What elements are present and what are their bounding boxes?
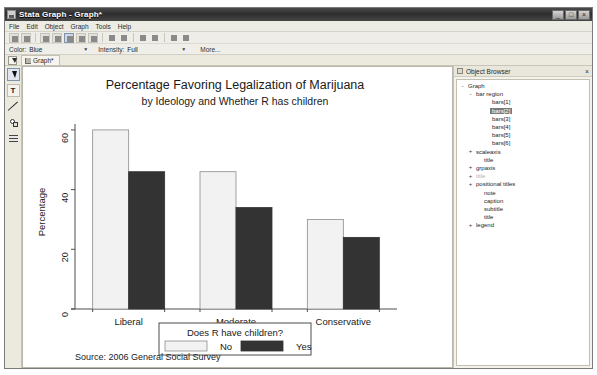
expand-icon[interactable]: +: [467, 181, 474, 188]
redo-icon[interactable]: [119, 33, 129, 43]
tab-graph[interactable]: Graph*: [21, 55, 60, 65]
close-icon: ×: [579, 11, 589, 19]
toolbar-separator: [35, 33, 36, 42]
more-button[interactable]: More...: [200, 46, 220, 53]
object-browser-tree[interactable]: -Graph-bar regionbars[1]bars[2]bars[3]ba…: [456, 79, 590, 366]
collapse-icon[interactable]: -: [459, 83, 466, 90]
grid-tool[interactable]: [7, 132, 20, 145]
tool-palette: T: [5, 66, 22, 368]
expand-icon[interactable]: +: [467, 148, 474, 155]
close-button[interactable]: ×: [578, 10, 590, 20]
close-panel-icon[interactable]: ×: [585, 68, 589, 75]
paste-icon[interactable]: [52, 33, 62, 43]
tree-node-label: bar region: [474, 91, 505, 97]
tree-node-label: positional titles: [474, 181, 517, 187]
tree-node-label: caption: [482, 198, 505, 204]
tree-node[interactable]: bars[2]: [457, 107, 589, 115]
menu-item-file[interactable]: File: [9, 23, 19, 30]
zoom-out-icon[interactable]: [150, 33, 160, 43]
menu-item-tools[interactable]: Tools: [96, 23, 111, 30]
legend-label-yes: Yes: [296, 341, 312, 352]
save-icon[interactable]: [9, 33, 19, 43]
chevron-down-icon-2[interactable]: ▼: [181, 46, 186, 52]
menu-item-edit[interactable]: Edit: [26, 23, 37, 30]
menu-item-graph[interactable]: Graph: [70, 23, 88, 30]
y-tick-label: 60: [60, 133, 70, 143]
record-icon[interactable]: [169, 33, 179, 43]
chevron-down-icon[interactable]: ▼: [83, 46, 88, 52]
menu-item-help[interactable]: Help: [118, 23, 131, 30]
color-field[interactable]: Color: Blue ▼: [9, 46, 98, 53]
tree-node[interactable]: +grpaxis: [457, 164, 589, 172]
bar-chart[interactable]: Percentage Favoring Legalization of Mari…: [23, 67, 447, 365]
tree-node[interactable]: bars[4]: [457, 123, 589, 131]
minimize-icon: _: [553, 11, 563, 19]
workspace: T Percentage Favoring Legalization of Ma…: [5, 66, 592, 368]
tree-node[interactable]: bars[6]: [457, 139, 589, 147]
play-icon[interactable]: [181, 33, 191, 43]
title-bar: Stata Graph - Graph* _ □ ×: [5, 8, 592, 21]
select-tool-icon[interactable]: [64, 33, 74, 43]
y-axis-label: Percentage: [36, 188, 47, 237]
toolbar-separator-2: [102, 33, 103, 42]
bar-yes-conservative[interactable]: [343, 237, 379, 309]
tree-node[interactable]: caption: [457, 197, 589, 205]
graph-icon: [25, 58, 31, 64]
bar-no-liberal[interactable]: [93, 130, 129, 309]
bar-no-conservative[interactable]: [307, 219, 343, 309]
copy-icon[interactable]: [40, 33, 50, 43]
tree-node[interactable]: bars[3]: [457, 115, 589, 123]
tree-node-label: bars[2]: [490, 108, 512, 114]
undo-icon[interactable]: [107, 33, 117, 43]
maximize-icon: □: [566, 11, 576, 19]
graph-canvas[interactable]: Percentage Favoring Legalization of Mari…: [22, 66, 453, 368]
tree-node[interactable]: note: [457, 188, 589, 196]
tree-node-label: Graph: [466, 83, 487, 89]
intensity-field[interactable]: Intensity: Full ▼: [98, 46, 196, 53]
text-tool-icon[interactable]: [88, 33, 98, 43]
pointer-tool[interactable]: [7, 68, 20, 81]
minimize-button[interactable]: _: [552, 10, 564, 20]
tree-node[interactable]: subtitle: [457, 205, 589, 213]
bar-no-moderate[interactable]: [200, 172, 236, 309]
menu-item-object[interactable]: Object: [45, 23, 64, 30]
tree-node[interactable]: +legend: [457, 221, 589, 229]
legend-label-no: No: [220, 341, 232, 352]
tree-node[interactable]: -Graph: [457, 82, 589, 90]
icon-toolbar: [5, 32, 592, 44]
tree-node[interactable]: title: [457, 213, 589, 221]
print-icon[interactable]: [21, 33, 31, 43]
toolbar-separator-4: [164, 33, 165, 42]
zoom-in-icon[interactable]: [138, 33, 148, 43]
tree-node-label: grpaxis: [474, 165, 497, 171]
legend-title: Does R have children?: [187, 327, 283, 338]
color-value[interactable]: Blue: [29, 46, 81, 53]
expand-icon[interactable]: +: [467, 222, 474, 229]
collapse-icon[interactable]: -: [467, 91, 474, 98]
tree-node[interactable]: bars[1]: [457, 98, 589, 106]
tree-node-label: subtitle: [482, 206, 505, 212]
legend-swatch-yes[interactable]: [241, 341, 283, 351]
maximize-button[interactable]: □: [565, 10, 577, 20]
color-label: Color:: [9, 46, 26, 53]
bar-yes-moderate[interactable]: [236, 208, 272, 309]
y-tick-label: 0: [60, 312, 70, 317]
tree-node-label: bars[4]: [490, 124, 512, 130]
bar-yes-liberal[interactable]: [129, 172, 165, 309]
tree-node[interactable]: bars[5]: [457, 131, 589, 139]
expand-icon[interactable]: +: [467, 164, 474, 171]
pin-icon[interactable]: [457, 68, 463, 74]
legend-swatch-no[interactable]: [165, 341, 207, 351]
line-tool[interactable]: [7, 100, 20, 113]
tree-node[interactable]: +scaleaxis: [457, 148, 589, 156]
shape-tool[interactable]: [7, 116, 20, 129]
text-tool[interactable]: T: [7, 84, 20, 97]
grid-icon[interactable]: [76, 33, 86, 43]
tree-node[interactable]: title: [457, 156, 589, 164]
tree-node[interactable]: +title: [457, 172, 589, 180]
expand-icon[interactable]: +: [467, 173, 474, 180]
tree-node[interactable]: -bar region: [457, 90, 589, 98]
tree-node[interactable]: +positional titles: [457, 180, 589, 188]
intensity-value[interactable]: Full: [127, 46, 179, 53]
pointer-icon[interactable]: [8, 56, 17, 65]
